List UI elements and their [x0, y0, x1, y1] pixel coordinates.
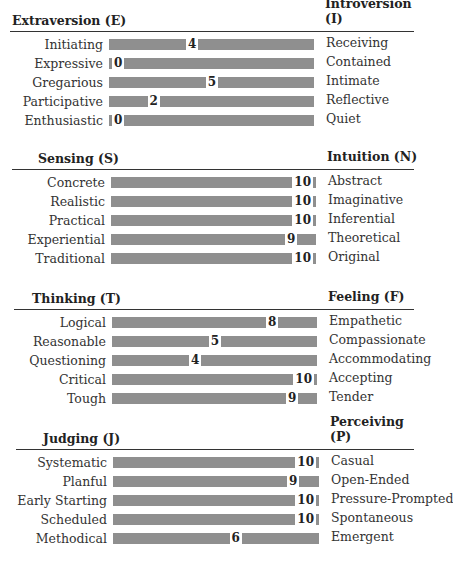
left-facet-label: Expressive: [3, 55, 103, 72]
right-facet-label: Theoretical: [328, 229, 400, 246]
left-facet-label: Practical: [5, 212, 105, 229]
right-facet-label: Inferential: [328, 210, 395, 227]
right-facet-label: Pressure-Prompted: [331, 490, 453, 507]
right-facet-label: Emergent: [331, 528, 394, 545]
scale-rows: Concrete10AbstractRealistic10Imaginative…: [0, 174, 429, 269]
score-bar: 5: [112, 336, 317, 347]
left-facet-label: Planful: [7, 473, 107, 490]
scale-row: Tough9Tender: [0, 390, 429, 409]
score-bar: 6: [113, 533, 319, 544]
left-facet-label: Concrete: [5, 174, 105, 191]
bar-left-segment: [109, 39, 186, 50]
bar-left-segment: [113, 495, 295, 506]
score-bar: 10: [112, 374, 317, 385]
score-value: 0: [112, 115, 124, 126]
scale-row: Traditional10Original: [0, 250, 429, 269]
score-bar: 10: [113, 514, 319, 525]
scale-section-1: Extraversion (E)Introversion (I)Initiati…: [0, 10, 429, 131]
right-pole-heading: Feeling (F): [328, 289, 404, 304]
bar-right-segment: [218, 77, 314, 88]
left-facet-label: Critical: [6, 371, 106, 388]
right-facet-label: Intimate: [326, 72, 380, 89]
scale-rows: Logical8EmpatheticReasonable5Compassiona…: [0, 314, 429, 409]
right-facet-label: Contained: [326, 53, 391, 70]
section-header: Extraversion (E)Introversion (I): [0, 10, 429, 32]
score-value: 5: [209, 336, 221, 347]
bar-left-segment: [112, 374, 293, 385]
score-bar: 5: [109, 77, 314, 88]
left-facet-label: Traditional: [5, 250, 105, 267]
score-bar: 9: [113, 476, 319, 487]
score-bar: 10: [111, 196, 316, 207]
left-facet-label: Tough: [6, 390, 106, 407]
section-header: Thinking (T)Feeling (F): [0, 288, 429, 310]
score-bar: 10: [113, 495, 319, 506]
bar-left-segment: [112, 336, 209, 347]
bar-left-segment: [111, 196, 292, 207]
scale-rows: Initiating4ReceivingExpressive0Contained…: [0, 36, 429, 131]
bar-right-segment: [198, 39, 314, 50]
score-bar: 2: [109, 96, 314, 107]
right-pole-heading: Intuition (N): [327, 149, 417, 164]
right-facet-label: Reflective: [326, 91, 389, 108]
bar-right-segment: [313, 196, 316, 207]
score-value: 10: [295, 495, 316, 506]
right-facet-label: Empathetic: [329, 312, 402, 329]
bar-right-segment: [298, 393, 317, 404]
score-value: 5: [206, 77, 218, 88]
left-facet-label: Logical: [6, 314, 106, 331]
scale-row: Participative2Reflective: [0, 93, 429, 112]
score-value: 9: [285, 234, 297, 245]
section-divider: [16, 449, 414, 450]
right-facet-label: Original: [328, 248, 380, 265]
score-value: 9: [287, 476, 299, 487]
right-facet-label: Casual: [331, 452, 374, 469]
left-pole-heading: Thinking (T): [32, 291, 121, 306]
scale-row: Enthusiastic0Quiet: [0, 112, 429, 131]
score-bar: 10: [111, 177, 316, 188]
bar-right-segment: [313, 215, 316, 226]
bar-right-segment: [316, 457, 319, 468]
score-value: 6: [230, 533, 242, 544]
score-bar: 10: [111, 215, 316, 226]
right-facet-label: Compassionate: [329, 331, 426, 348]
bar-left-segment: [109, 77, 206, 88]
scale-section-4: Judging (J)Perceiving (P)Systematic10Cas…: [0, 428, 429, 549]
score-value: 0: [112, 58, 124, 69]
score-value: 10: [295, 457, 316, 468]
right-pole-heading: Introversion (I): [325, 0, 429, 26]
score-bar: 0: [109, 58, 314, 69]
bar-left-segment: [113, 514, 295, 525]
bar-right-segment: [314, 374, 317, 385]
bar-right-segment: [201, 355, 317, 366]
bar-left-segment: [111, 234, 285, 245]
score-value: 10: [292, 196, 313, 207]
right-facet-label: Quiet: [326, 110, 361, 127]
section-divider: [12, 169, 414, 170]
bar-right-segment: [297, 234, 316, 245]
section-header: Judging (J)Perceiving (P): [0, 428, 429, 450]
bar-right-segment: [242, 533, 319, 544]
scale-rows: Systematic10CasualPlanful9Open-EndedEarl…: [0, 454, 429, 549]
bar-right-segment: [313, 177, 316, 188]
left-facet-label: Experiential: [5, 231, 105, 248]
bar-right-segment: [221, 336, 317, 347]
score-value: 4: [189, 355, 201, 366]
left-facet-label: Reasonable: [6, 333, 106, 350]
score-bar: 9: [112, 393, 317, 404]
left-facet-label: Initiating: [3, 36, 103, 53]
scale-row: Methodical6Emergent: [0, 530, 429, 549]
bar-right-segment: [124, 58, 314, 69]
right-facet-label: Receiving: [326, 34, 388, 51]
bar-right-segment: [316, 514, 319, 525]
score-bar: 10: [111, 253, 316, 264]
right-facet-label: Spontaneous: [331, 509, 413, 526]
score-value: 2: [148, 96, 160, 107]
score-value: 9: [286, 393, 298, 404]
section-divider: [14, 309, 414, 310]
bar-right-segment: [124, 115, 314, 126]
right-facet-label: Accommodating: [329, 350, 431, 367]
left-facet-label: Gregarious: [3, 74, 103, 91]
bar-left-segment: [112, 393, 286, 404]
left-facet-label: Questioning: [6, 352, 106, 369]
